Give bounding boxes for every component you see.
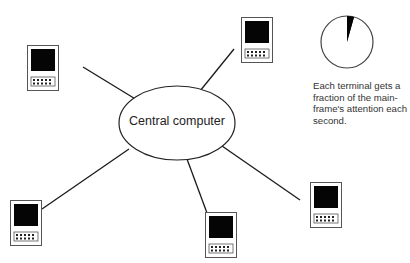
terminal-top-right	[242, 18, 273, 63]
terminal-bottom-center	[206, 213, 237, 258]
terminal-top-left	[28, 46, 59, 91]
link-top-left	[83, 67, 137, 100]
caption-text: Each terminal gets a fraction of the mai…	[313, 80, 410, 126]
terminal-right	[311, 183, 342, 228]
link-top-right	[200, 49, 234, 91]
link-right	[222, 146, 300, 200]
link-bottom-left	[42, 149, 129, 209]
link-bottom-center	[187, 159, 207, 213]
terminal-bottom-left	[11, 201, 42, 246]
time-slice-pie-icon	[321, 16, 373, 68]
central-computer-label: Central computer	[118, 114, 236, 128]
network-diagram	[0, 0, 410, 263]
